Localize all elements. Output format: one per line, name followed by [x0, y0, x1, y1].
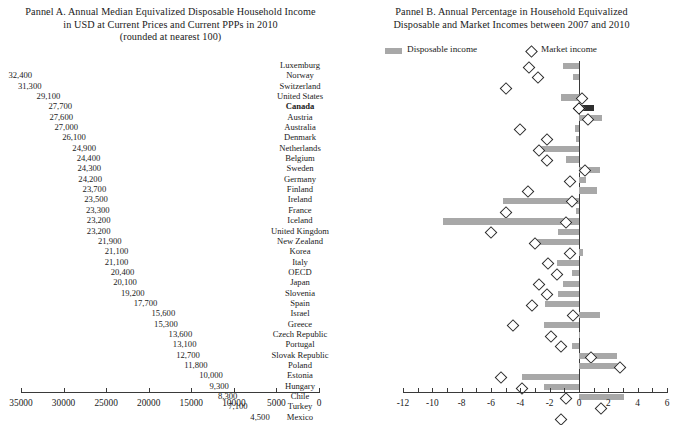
diamond-marker-icon [525, 45, 538, 58]
panel-a-category-label: Portugal [255, 339, 345, 349]
panel-b-row [341, 309, 682, 319]
panel-b-tick [638, 388, 639, 393]
panel-a-value-label: 10,000 [199, 370, 223, 380]
panel-a-category-label: France [255, 205, 345, 215]
panel-b-title-line1: Pannel B. Annual Percentage in Household… [341, 6, 682, 19]
panel-b-row [341, 164, 682, 174]
panel-a-category-label: United States [255, 91, 345, 101]
panel-a-category-label: Australia [255, 122, 345, 132]
panel-a-category-label: Belgium [255, 153, 345, 163]
panel-b: Pannel B. Annual Percentage in Household… [341, 0, 682, 424]
panel-a-tick-label: 20000 [137, 398, 160, 408]
panel-b-row [341, 71, 682, 81]
panel-a-value-label: 24,300 [77, 163, 101, 173]
panel-b-tick-label: -6 [487, 398, 495, 408]
panel-b-tick [535, 388, 536, 393]
panel-b-row [341, 340, 682, 350]
panel-b-tick [564, 388, 565, 393]
panel-b-row [341, 113, 682, 123]
panel-b-disposable-income-bar [563, 63, 579, 69]
panel-a-tick-label: 0 [317, 398, 322, 408]
panel-a-value-label: 23,500 [84, 194, 108, 204]
panel-a-category-label: Spain [255, 298, 345, 308]
panel-b-x-axis: -12-10-8-6-4-20246 [341, 392, 682, 422]
panel-b-title-line2: Disposable and Market Incomes between 20… [341, 19, 682, 32]
panel-b-tick-label: -10 [426, 398, 439, 408]
panel-b-tick [491, 388, 492, 393]
panel-b-disposable-income-bar [579, 332, 580, 338]
panel-b-row [341, 133, 682, 143]
panel-a-tick [106, 388, 107, 393]
panel-a-category-label: Germany [255, 174, 345, 184]
panel-b-tick-label: -4 [516, 398, 524, 408]
panel-a-value-label: 11,800 [184, 360, 207, 370]
panel-b-row [341, 371, 682, 381]
panel-b-tick [608, 388, 609, 393]
panel-b-tick-label: 2 [606, 398, 611, 408]
panel-a-value-label: 27,600 [49, 112, 73, 122]
panel-b-row [341, 195, 682, 205]
panel-a-tick-label: 5000 [267, 398, 286, 408]
panel-b-disposable-income-bar [576, 208, 579, 214]
panel-a-title-line3: (rounded at nearest 100) [0, 31, 341, 44]
panel-a-value-label: 15,600 [152, 308, 176, 318]
panel-a-value-label: 21,900 [98, 236, 122, 246]
panel-a-tick-label: 25000 [94, 398, 117, 408]
panel-a-category-label: Korea [255, 246, 345, 256]
panel-b-disposable-income-bar [575, 125, 579, 131]
panel-a-category-label: Ireland [255, 194, 345, 204]
panel-b-tick [550, 388, 551, 393]
panel-a-axis-line [21, 392, 319, 393]
panel-a-tick [64, 388, 65, 393]
panel-b-disposable-income-bar [563, 281, 579, 287]
panel-a-category-label: Canada [255, 101, 345, 111]
panel-b-row [341, 247, 682, 257]
panel-b-disposable-income-bar [443, 218, 579, 224]
panel-a-value-label: 21,100 [105, 246, 129, 256]
panel-b-row [341, 92, 682, 102]
panel-b-tick [418, 388, 419, 393]
panel-b-tick [520, 388, 521, 393]
panel-a-value-label: 23,200 [87, 226, 111, 236]
panel-a-value-label: 15,300 [154, 319, 178, 329]
panel-b-legend: Disposable income Market income [341, 44, 682, 58]
panel-a-tick [234, 388, 235, 393]
panel-a-tick [191, 388, 192, 393]
panel-a-value-label: 29,100 [37, 91, 61, 101]
panel-a-value-label: 27,000 [54, 122, 78, 132]
panel-a-value-label: 24,900 [72, 143, 96, 153]
panel-b-row [341, 123, 682, 133]
panel-a-tick-label: 10000 [222, 398, 245, 408]
legend-label-disposable-income: Disposable income [407, 44, 477, 54]
panel-a-plot-area: 36,400Luxemburg32,400Norway31,300Switzer… [8, 61, 333, 391]
panel-b-tick [432, 388, 433, 393]
panel-a-value-label: 20,100 [113, 277, 137, 287]
panel-a-value-label: 32,400 [9, 70, 33, 80]
panel-a-category-label: Japan [255, 277, 345, 287]
panel-a-category-label: Hungary [255, 381, 345, 391]
panel-a-value-label: 24,400 [77, 153, 101, 163]
panel-b-row [341, 268, 682, 278]
panel-a-value-label: 17,700 [134, 298, 158, 308]
panel-b-row [341, 144, 682, 154]
panel-a-category-label: OECD [255, 267, 345, 277]
panel-a-tick [149, 388, 150, 393]
panel-a-value-label: 23,700 [83, 184, 107, 194]
panel-a-tick-label: 35000 [9, 398, 32, 408]
panel-a: Pannel A. Annual Median Equivalized Disp… [0, 0, 341, 424]
panel-b-disposable-income-bar [579, 312, 600, 318]
panel-a-category-label: Luxemburg [255, 60, 345, 70]
panel-a-value-label: 13,100 [173, 339, 197, 349]
panel-b-row [341, 351, 682, 361]
panel-a-category-label: Italy [255, 257, 345, 267]
panel-b-row [341, 61, 682, 71]
panel-b-disposable-income-bar [541, 146, 579, 152]
panel-a-category-label: Poland [255, 360, 345, 370]
panel-b-row [341, 216, 682, 226]
panel-b-row [341, 175, 682, 185]
panel-b-disposable-income-bar [579, 249, 583, 255]
panel-a-value-label: 23,300 [86, 205, 110, 215]
panel-a-category-label: Israel [255, 308, 345, 318]
panel-b-tick [594, 388, 595, 393]
panel-a-value-label: 19,200 [121, 288, 145, 298]
